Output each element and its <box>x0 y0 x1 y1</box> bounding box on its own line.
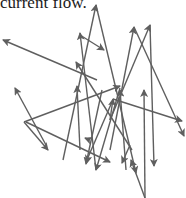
arrow-17 <box>86 102 112 162</box>
arrow-22 <box>144 90 145 198</box>
arrow-diagram <box>0 0 186 198</box>
arrow-23 <box>122 145 130 163</box>
document-page: current flow. <box>0 0 186 198</box>
arrow-18 <box>85 138 90 140</box>
arrow-5 <box>15 88 46 145</box>
arrow-21 <box>131 160 145 198</box>
arrow-6 <box>80 35 104 50</box>
arrow-layer <box>3 5 184 198</box>
arrow-16 <box>26 122 110 162</box>
arrow-14 <box>150 25 154 166</box>
arrow-3 <box>77 86 80 150</box>
